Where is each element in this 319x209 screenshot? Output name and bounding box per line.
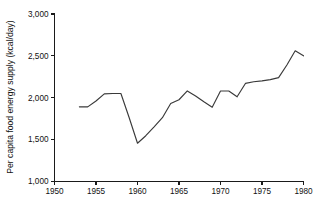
x-tick-label: 1960 [128,187,147,196]
y-tick-label: 2,500 [28,52,49,61]
x-tick-label: 1965 [170,187,189,196]
y-tick-label: 1,500 [28,135,49,144]
y-tick-label: 3,000 [28,10,49,19]
x-tick-label: 1950 [45,187,64,196]
y-tick-label: 2,000 [28,94,49,103]
x-tick-label: 1970 [211,187,230,196]
x-tick-label: 1955 [87,187,106,196]
y-tick-label: 1,000 [28,177,49,186]
chart-figure: 1,0001,5002,0002,5003,000 19501955196019… [0,0,319,209]
y-axis-title: Per capita food energy supply (kcal/day) [5,20,15,173]
x-tick-label: 1980 [294,187,313,196]
line-chart: 1,0001,5002,0002,5003,000 19501955196019… [0,0,319,209]
x-tick-label: 1975 [253,187,272,196]
